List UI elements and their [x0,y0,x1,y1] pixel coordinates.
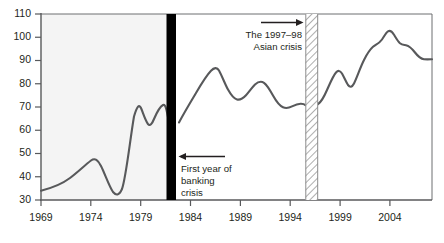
banking-crisis-label-line2: banking [181,175,215,186]
x-tick-label-2004: 2004 [378,211,402,223]
x-tick-label-1969: 1969 [29,211,53,223]
y-tick-label-50: 50 [19,146,31,158]
banking-crisis-label-line1: First year of [181,163,232,174]
banking-crisis-annotation: First year of banking crisis [179,153,232,198]
asian-crisis-band [306,14,319,200]
y-tick-label-70: 70 [19,100,31,112]
y-tick-label-110: 110 [14,7,31,19]
asian-crisis-label-line2: Asian crisis [253,41,302,52]
data-line-segment-2 [179,68,306,122]
y-tick-label-80: 80 [19,77,31,89]
y-tick-label-90: 90 [19,53,31,65]
y-tick-label-60: 60 [19,123,31,135]
banking-crisis-label-line3: crisis [181,187,203,198]
asian-crisis-label-line1: The 1997–98 [245,29,302,40]
y-tick-label-40: 40 [19,170,31,182]
y-tick-label-100: 100 [13,30,31,42]
x-tick-label-1984: 1984 [179,211,203,223]
x-tick-label-1989: 1989 [229,211,253,223]
x-tick-label-1974: 1974 [79,211,103,223]
y-tick-marks [35,14,41,200]
x-tick-marks [41,200,390,206]
banking-crisis-bar [167,14,177,200]
x-tick-label-1979: 1979 [129,211,153,223]
asian-crisis-annotation: The 1997–98 Asian crisis [245,19,303,52]
x-tick-label-1999: 1999 [328,211,352,223]
chart-container: 110 100 90 80 70 60 50 40 30 1969 1974 1… [0,0,444,243]
line-chart: 110 100 90 80 70 60 50 40 30 1969 1974 1… [0,0,444,243]
y-tick-label-30: 30 [19,193,31,205]
data-line-segment-3 [318,31,432,104]
x-tick-label-1994: 1994 [279,211,303,223]
